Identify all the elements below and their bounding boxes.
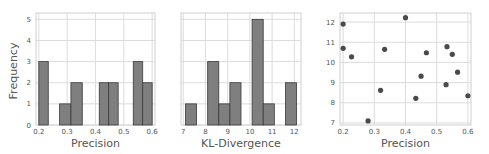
- histogram-bar: [219, 104, 230, 125]
- x-tick-label: 0.4: [400, 128, 412, 136]
- histogram-bar: [133, 62, 142, 125]
- histogram-bar: [39, 62, 48, 125]
- x-axis-label: KL-Divergence: [201, 137, 281, 150]
- x-tick-label: 11: [268, 128, 277, 136]
- histogram-bar: [208, 62, 219, 125]
- scatter-point: [443, 82, 448, 87]
- scatter-point: [465, 93, 470, 98]
- precision-histogram: 0.20.30.40.50.6012345PrecisionFrequency: [0, 0, 165, 154]
- x-tick-label: 0.2: [338, 128, 349, 136]
- histogram-bar: [252, 19, 263, 125]
- scatter-point: [403, 15, 408, 20]
- histogram-bar: [99, 83, 108, 125]
- scatter-point: [382, 47, 387, 52]
- y-tick-label: 8: [331, 99, 335, 107]
- scatter-point: [378, 88, 383, 93]
- histogram-bar: [143, 83, 152, 125]
- histogram-bar: [109, 83, 118, 125]
- x-tick-label: 0.3: [369, 128, 380, 136]
- x-tick-label: 0.3: [62, 128, 73, 136]
- histogram-bar: [60, 104, 71, 125]
- y-axis-label: Frequency: [7, 42, 20, 99]
- y-tick-label: 4: [27, 37, 32, 45]
- scatter-point: [418, 74, 423, 79]
- scatter-point: [365, 118, 370, 123]
- x-tick-label: 0.6: [147, 128, 159, 136]
- y-tick-label: 11: [326, 39, 335, 47]
- x-tick-label: 0.2: [33, 128, 44, 136]
- y-tick-label: 9: [331, 79, 335, 87]
- y-tick-label: 0: [27, 122, 31, 130]
- x-tick-label: 9: [225, 128, 229, 136]
- x-tick-label: 10: [245, 128, 254, 136]
- histogram-bar: [71, 83, 82, 125]
- y-tick-label: 7: [331, 119, 335, 127]
- histogram-bar: [230, 83, 241, 125]
- x-tick-label: 0.4: [90, 128, 102, 136]
- scatter-point: [424, 50, 429, 55]
- y-tick-label: 10: [326, 59, 335, 67]
- scatter-point: [450, 52, 455, 57]
- y-tick-label: 5: [27, 16, 31, 24]
- x-axis-label: Precision: [71, 137, 120, 150]
- x-tick-label: 8: [203, 128, 207, 136]
- x-tick-label: 0.5: [118, 128, 129, 136]
- x-tick-label: 0.5: [431, 128, 442, 136]
- y-tick-label: 2: [27, 79, 31, 87]
- scatter-point: [444, 44, 449, 49]
- histogram-bar: [285, 83, 296, 125]
- x-axis-label: Precision: [381, 137, 430, 150]
- y-tick-label: 12: [326, 19, 335, 27]
- y-tick-label: 1: [27, 100, 31, 108]
- histogram-bar: [263, 104, 274, 125]
- scatter-point: [341, 46, 346, 51]
- scatter-point: [455, 70, 460, 75]
- x-tick-label: 0.6: [462, 128, 474, 136]
- kl-divergence-histogram: 789101112KL-Divergence: [165, 0, 325, 154]
- y-tick-label: 3: [27, 58, 31, 66]
- scatter-point: [349, 54, 354, 59]
- scatter-point: [413, 96, 418, 101]
- precision-vs-kl-scatter: 0.20.30.40.50.6789101112PrecisionKL-Dive…: [325, 0, 489, 154]
- scatter-point: [341, 21, 346, 26]
- histogram-bar: [185, 104, 196, 125]
- x-tick-label: 12: [290, 128, 299, 136]
- x-tick-label: 7: [181, 128, 185, 136]
